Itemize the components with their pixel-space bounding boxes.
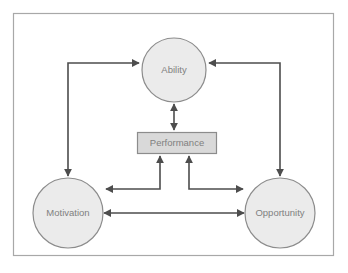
node-motivation[interactable]: Motivation — [33, 178, 103, 248]
node-performance[interactable]: Performance — [138, 133, 217, 154]
amo-model-diagram: Ability Motivation Opportunity Performan… — [0, 0, 348, 273]
node-ability[interactable]: Ability — [142, 38, 206, 102]
opportunity-label: Opportunity — [255, 207, 304, 218]
motivation-label: Motivation — [46, 207, 89, 218]
node-opportunity[interactable]: Opportunity — [245, 178, 315, 248]
performance-label: Performance — [150, 137, 204, 148]
ability-label: Ability — [161, 64, 187, 75]
diagram-canvas: Ability Motivation Opportunity Performan… — [0, 0, 348, 273]
